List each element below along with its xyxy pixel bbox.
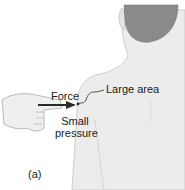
illustration [0, 0, 185, 190]
panel-label: (a) [28, 168, 41, 180]
large-area-label: Large area [106, 83, 159, 95]
person-back [72, 8, 185, 190]
pressure-diagram: Force Large area Small pressure (a) [0, 0, 185, 190]
force-label: Force [51, 90, 79, 102]
small-pressure-line1: Small [55, 115, 95, 127]
small-pressure-label: Small pressure [55, 115, 95, 139]
small-pressure-line2: pressure [55, 127, 95, 139]
contact-point [77, 103, 80, 106]
